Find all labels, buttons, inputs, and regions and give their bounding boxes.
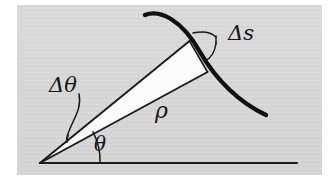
theta-label: θ: [94, 132, 106, 156]
rho-label: ρ: [154, 98, 168, 123]
delta-theta-label: Δθ: [48, 73, 77, 97]
figure-container: Δs Δθ ρ θ: [0, 0, 335, 186]
curvature-diagram: Δs Δθ ρ θ: [0, 0, 335, 186]
delta-s-label: Δs: [227, 21, 254, 45]
